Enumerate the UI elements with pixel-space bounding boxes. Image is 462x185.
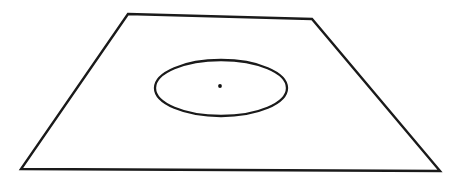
geometry-figure — [0, 0, 462, 185]
figure-stage — [0, 0, 462, 185]
ellipse-center-point — [218, 84, 222, 88]
